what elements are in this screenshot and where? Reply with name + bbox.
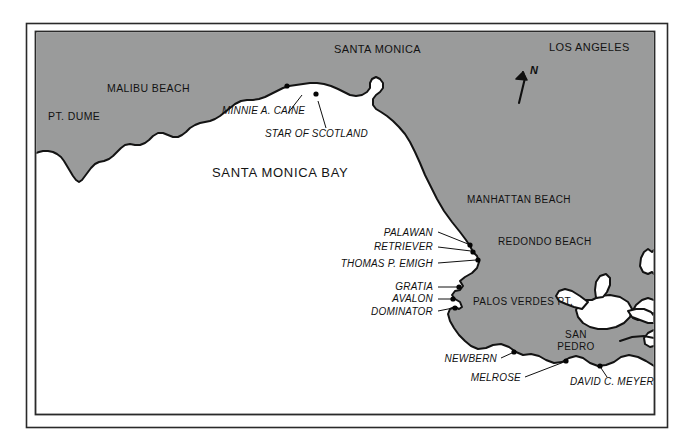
wreck-label-avalon[interactable]: AVALON: [391, 293, 433, 304]
place-label-san-pedro-line2: PEDRO: [557, 341, 595, 352]
wreck-dot-avalon[interactable]: [450, 296, 455, 301]
wreck-dot-newbern[interactable]: [511, 349, 516, 354]
place-label-san-pedro-line1: SAN: [565, 329, 587, 340]
place-label-pt-dume: PT. DUME: [48, 110, 100, 122]
wreck-dot-minnie-a-caine[interactable]: [284, 83, 289, 88]
santa-monica-bay-map: N PT. DUME MALIBU BEACH SANTA MONICA LOS…: [0, 0, 700, 441]
place-label-malibu-beach: MALIBU BEACH: [107, 82, 190, 94]
wreck-dot-gratia[interactable]: [456, 284, 461, 289]
north-arrow-label: N: [530, 64, 539, 76]
wreck-label-palawan[interactable]: PALAWAN: [384, 227, 434, 238]
wreck-label-newbern[interactable]: NEWBERN: [444, 353, 497, 364]
wreck-dot-retriever[interactable]: [470, 249, 475, 254]
bay-label-santa-monica-bay: SANTA MONICA BAY: [212, 165, 348, 180]
wreck-label-melrose[interactable]: MELROSE: [471, 372, 521, 383]
wreck-label-thomas-p-emigh[interactable]: THOMAS P. EMIGH: [341, 258, 434, 269]
wreck-dot-thomas-p-emigh[interactable]: [475, 257, 480, 262]
map-page: N PT. DUME MALIBU BEACH SANTA MONICA LOS…: [0, 0, 700, 441]
wreck-label-gratia[interactable]: GRATIA: [395, 281, 433, 292]
place-label-santa-monica: SANTA MONICA: [334, 43, 421, 55]
wreck-label-retriever[interactable]: RETRIEVER: [374, 241, 433, 252]
place-label-los-angeles: LOS ANGELES: [549, 41, 630, 53]
wreck-dot-melrose[interactable]: [563, 358, 568, 363]
wreck-label-star-of-scotland[interactable]: STAR OF SCOTLAND: [265, 128, 368, 139]
wreck-label-david-c-meyer[interactable]: DAVID C. MEYER: [570, 376, 654, 387]
wreck-dot-star-of-scotland[interactable]: [313, 91, 318, 96]
wreck-label-dominator[interactable]: DOMINATOR: [371, 306, 433, 317]
place-label-manhattan-beach: MANHATTAN BEACH: [467, 194, 571, 205]
wreck-dot-dominator[interactable]: [452, 305, 457, 310]
wreck-dot-david-c-meyer[interactable]: [597, 363, 602, 368]
place-label-redondo-beach: REDONDO BEACH: [498, 236, 592, 247]
wreck-dot-palawan[interactable]: [467, 242, 472, 247]
wreck-label-minnie-a-caine[interactable]: MINNIE A. CAINE: [222, 105, 305, 116]
place-label-palos-verdes-pt: PALOS VERDES PT.: [473, 296, 573, 307]
